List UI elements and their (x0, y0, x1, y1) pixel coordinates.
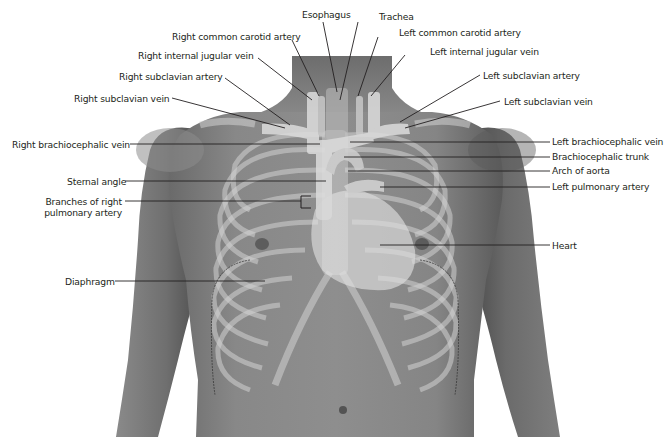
label-branches-line2: pulmonary artery (40, 207, 122, 218)
label-arch-of-aorta: Arch of aorta (552, 165, 610, 176)
label-esophagus: Esophagus (302, 9, 351, 20)
label-right-common-carotid-artery: Right common carotid artery (172, 31, 301, 42)
label-right-subclavian-artery: Right subclavian artery (119, 71, 223, 82)
label-branches-line1: Branches of right (40, 196, 122, 207)
navel (339, 406, 347, 414)
label-branches-of-right-pulmonary-artery: Branches of right pulmonary artery (40, 196, 122, 218)
label-left-common-carotid-artery: Left common carotid artery (399, 27, 521, 38)
label-left-brachiocephalic-vein: Left brachiocephalic vein (552, 136, 663, 147)
label-left-subclavian-vein: Left subclavian vein (504, 96, 593, 107)
label-heart: Heart (552, 240, 577, 251)
label-diaphragm: Diaphragm (65, 276, 115, 287)
thorax-anatomy-figure: Esophagus Trachea Right common carotid a… (0, 0, 671, 446)
label-brachiocephalic-trunk: Brachiocephalic trunk (552, 151, 649, 162)
thorax-illustration (0, 0, 671, 446)
label-trachea: Trachea (379, 11, 414, 22)
label-right-brachiocephalic-vein: Right brachiocephalic vein (12, 139, 130, 150)
right-nipple (255, 238, 269, 250)
left-nipple (415, 238, 429, 250)
label-left-pulmonary-artery: Left pulmonary artery (552, 181, 649, 192)
label-left-internal-jugular-vein: Left internal jugular vein (430, 46, 539, 57)
label-right-subclavian-vein: Right subclavian vein (74, 93, 169, 104)
label-sternal-angle: Sternal angle (67, 176, 126, 187)
label-left-subclavian-artery: Left subclavian artery (483, 70, 580, 81)
label-right-internal-jugular-vein: Right internal jugular vein (138, 50, 254, 61)
